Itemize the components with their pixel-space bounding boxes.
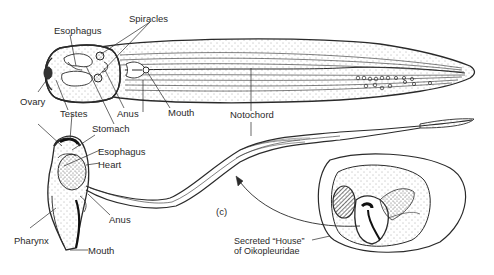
label-side-esophagus: Esophagus: [98, 147, 146, 157]
house-caption-line2: of Oikopleuridae: [234, 246, 305, 256]
house-drawing: [318, 154, 465, 252]
label-testes: Testes: [60, 109, 87, 119]
label-ovary: Ovary: [20, 97, 45, 107]
house-caption-leader: [312, 236, 330, 240]
label-stomach: Stomach: [92, 124, 130, 134]
label-side-mouth: Mouth: [88, 246, 114, 256]
label-top-esophagus: Esophagus: [54, 26, 102, 36]
label-pharynx: Pharynx: [14, 236, 49, 246]
label-side-anus: Anus: [109, 215, 131, 225]
house-caption-line1: Secreted “House”: [234, 236, 305, 246]
label-spiracles: Spiracles: [129, 14, 168, 24]
diagram-drawing: [0, 0, 494, 275]
panel-label: (c): [216, 207, 227, 217]
label-heart: Heart: [98, 160, 121, 170]
label-notochord: Notochord: [230, 110, 274, 120]
oikopleura-diagram: Esophagus Spiracles Ovary Testes Anus Mo…: [0, 0, 494, 275]
label-top-mouth: Mouth: [168, 108, 194, 118]
top-view-animal: [44, 39, 475, 103]
label-top-anus: Anus: [117, 109, 139, 119]
house-caption: Secreted “House” of Oikopleuridae: [234, 236, 305, 257]
